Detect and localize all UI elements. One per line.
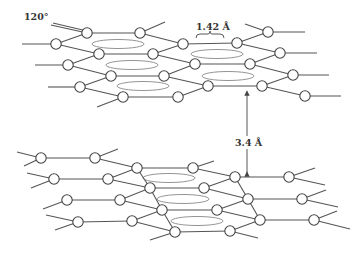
carbon-atom <box>135 28 145 38</box>
carbon-atom <box>203 81 213 91</box>
carbon-atom <box>73 217 83 227</box>
pi-orbital-ellipse <box>117 82 169 91</box>
carbon-bond <box>120 200 162 210</box>
bond-length-label: 1.42 Å <box>196 21 230 32</box>
bottom-graphene-layer <box>17 149 350 240</box>
carbon-atom <box>288 70 298 80</box>
carbon-bond <box>175 231 230 232</box>
carbon-bond <box>217 210 260 220</box>
angle-label: 120° <box>24 11 49 22</box>
carbon-atom <box>297 194 307 204</box>
pi-orbital-ellipse <box>171 217 223 226</box>
carbon-atom <box>118 92 128 102</box>
carbon-atom <box>148 49 158 59</box>
carbon-atom <box>212 205 222 215</box>
pi-orbital-ellipse <box>191 50 243 59</box>
carbon-bond <box>95 158 137 168</box>
carbon-atom <box>106 71 116 81</box>
carbon-bond <box>153 54 195 64</box>
carbon-atom <box>243 194 253 204</box>
carbon-atom <box>82 28 92 38</box>
carbon-bond <box>56 44 99 54</box>
carbon-atom <box>62 195 72 205</box>
carbon-atom <box>263 27 273 37</box>
carbon-bond <box>204 188 248 199</box>
carbon-atom <box>232 38 242 48</box>
carbon-bond <box>68 65 111 76</box>
carbon-atom <box>170 227 180 237</box>
carbon-atom <box>49 174 59 184</box>
carbon-atom <box>132 163 142 173</box>
carbon-bond <box>140 33 183 44</box>
carbon-atom <box>188 163 198 173</box>
carbon-atom <box>199 183 209 193</box>
carbon-atom <box>157 205 167 215</box>
carbon-atom <box>94 49 104 59</box>
pi-orbital-ellipse <box>202 72 254 81</box>
carbon-bond <box>80 87 123 97</box>
graphite-structure-diagram: 120° 1.42 Å 3.4 Å <box>0 0 362 255</box>
carbon-bond <box>164 76 208 86</box>
carbon-atom <box>51 39 61 49</box>
carbon-atom <box>255 215 265 225</box>
interlayer-spacing-label: 3.4 Å <box>235 137 263 148</box>
carbon-atom <box>127 216 137 226</box>
pi-orbital-ellipse <box>106 61 158 70</box>
carbon-atom <box>275 48 285 58</box>
carbon-atom <box>190 59 200 69</box>
carbon-atom <box>178 39 188 49</box>
carbon-atom <box>173 92 183 102</box>
carbon-bond <box>262 86 305 96</box>
carbon-bond <box>250 64 293 75</box>
top-graphene-layer <box>22 22 341 107</box>
carbon-atom <box>257 81 267 91</box>
carbon-bond <box>78 221 132 222</box>
carbon-atom <box>115 195 125 205</box>
carbon-atom <box>145 183 155 193</box>
carbon-atom <box>90 153 100 163</box>
carbon-atom <box>225 226 235 236</box>
carbon-atom <box>245 59 255 69</box>
carbon-atom <box>36 153 46 163</box>
carbon-atom <box>284 172 294 182</box>
carbon-atom <box>230 172 240 182</box>
bond-length-brace <box>196 31 224 38</box>
carbon-bond <box>237 43 280 53</box>
carbon-bond <box>132 221 175 232</box>
pi-orbital-ellipse <box>92 40 144 49</box>
pi-orbital-ellipse <box>157 195 209 204</box>
carbon-atom <box>63 60 73 70</box>
carbon-atom <box>103 174 113 184</box>
carbon-atom <box>309 215 319 225</box>
carbon-bond <box>183 43 237 44</box>
pi-orbital-ellipse <box>143 174 195 183</box>
carbon-atom <box>159 71 169 81</box>
carbon-atom <box>75 82 85 92</box>
carbon-bond <box>108 179 150 188</box>
carbon-atom <box>300 91 310 101</box>
carbon-bond <box>193 168 235 177</box>
